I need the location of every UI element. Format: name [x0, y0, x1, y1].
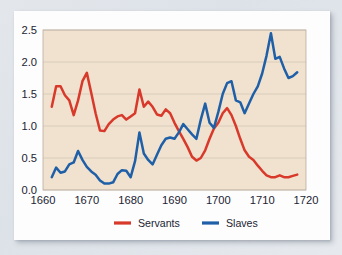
x-tick-label: 1670: [74, 194, 99, 206]
y-tick-label: 1.0: [21, 120, 37, 132]
x-tick-label: 1660: [31, 194, 56, 206]
chart-card: 0.00.51.01.52.02.5 166016701680169017001…: [14, 11, 330, 240]
y-tick-label: 1.5: [21, 88, 37, 100]
legend-label-slaves[interactable]: Slaves: [226, 217, 258, 229]
x-tick-label: 1720: [294, 194, 319, 206]
y-axis-tick-labels: 0.00.51.01.52.02.5: [21, 24, 37, 196]
x-tick-label: 1700: [206, 194, 231, 206]
x-tick-label: 1710: [250, 194, 275, 206]
x-tick-label: 1680: [118, 194, 143, 206]
y-tick-label: 2.5: [21, 24, 37, 36]
legend-label-servants[interactable]: Servants: [138, 217, 180, 229]
y-tick-label: 0.5: [21, 152, 37, 164]
figure-root: 0.00.51.01.52.02.5 166016701680169017001…: [0, 0, 342, 255]
chart-legend[interactable]: ServantsSlaves: [114, 217, 258, 229]
x-tick-label: 1690: [162, 194, 187, 206]
x-axis-tick-labels: 1660167016801690170017101720: [31, 194, 319, 206]
y-tick-label: 2.0: [21, 56, 37, 68]
line-chart[interactable]: 0.00.51.01.52.02.5 166016701680169017001…: [14, 11, 330, 240]
